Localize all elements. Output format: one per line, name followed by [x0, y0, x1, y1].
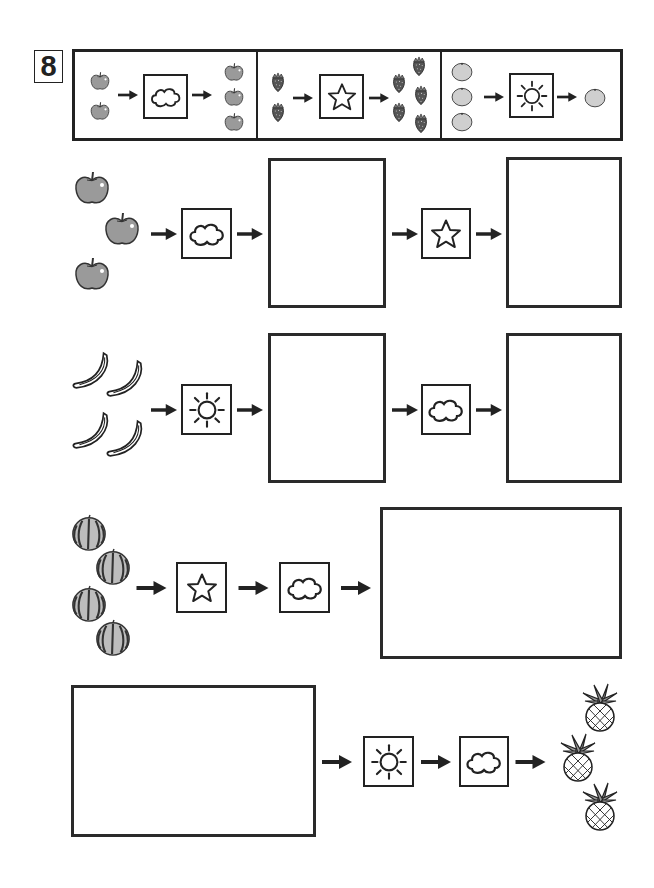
arrow-right-icon [557, 92, 577, 102]
panel-divider [256, 50, 258, 140]
strawberry-icon [391, 101, 407, 123]
arrow-right-icon [236, 581, 271, 595]
orange-icon [583, 87, 607, 108]
cloud-icon [149, 84, 183, 110]
cloud-operation-box [181, 208, 232, 259]
cloud-icon [464, 747, 504, 777]
watermelon-icon [94, 547, 132, 587]
apple-icon [72, 168, 112, 208]
pineapple-icon [580, 683, 620, 733]
arrow-right-icon [484, 92, 504, 102]
arrow-right-icon [320, 755, 354, 769]
arrow-right-icon [339, 581, 373, 595]
problem-number: 8 [40, 50, 56, 83]
arrow-right-icon [237, 227, 263, 241]
banana-icon [104, 357, 146, 401]
answer-box[interactable] [506, 333, 622, 483]
sun-operation-box [363, 736, 414, 787]
sun-icon [186, 389, 228, 431]
sun-operation-box [181, 384, 232, 435]
arrow-right-icon [392, 403, 418, 417]
strawberry-icon [413, 112, 429, 134]
star-operation-box [176, 562, 227, 613]
apple-icon [102, 209, 142, 249]
orange-icon [450, 61, 474, 82]
answer-box[interactable] [268, 158, 386, 308]
apple-icon [72, 254, 112, 294]
answer-box[interactable] [380, 507, 622, 659]
star-operation-box [421, 208, 471, 259]
star-icon [184, 570, 220, 606]
star-icon [325, 80, 359, 114]
apple-icon [89, 100, 111, 122]
orange-icon [450, 86, 474, 107]
pineapple-icon [558, 733, 598, 783]
cloud-rule-box [143, 74, 188, 119]
apple-icon [89, 70, 111, 92]
arrow-right-icon [192, 90, 212, 100]
arrow-right-icon [392, 227, 418, 241]
cloud-icon [285, 573, 325, 603]
cloud-operation-box [421, 384, 471, 435]
strawberry-icon [391, 72, 407, 94]
arrow-right-icon [237, 403, 263, 417]
arrow-right-icon [419, 755, 453, 769]
strawberry-icon [270, 71, 286, 93]
cloud-icon [426, 395, 466, 425]
answer-box[interactable] [506, 157, 622, 308]
panel-divider [440, 50, 442, 140]
arrow-right-icon [151, 403, 177, 417]
cloud-icon [187, 219, 227, 249]
arrow-right-icon [369, 93, 389, 103]
sun-rule-box [509, 73, 554, 118]
cloud-operation-box [459, 736, 509, 787]
arrow-right-icon [293, 93, 313, 103]
arrow-right-icon [476, 403, 502, 417]
strawberry-icon [411, 55, 427, 77]
watermelon-icon [94, 618, 132, 658]
pineapple-icon [580, 782, 620, 832]
strawberry-icon [413, 84, 429, 106]
arrow-right-icon [513, 755, 548, 769]
apple-icon [223, 111, 245, 133]
cloud-operation-box [279, 562, 330, 613]
answer-box[interactable] [71, 685, 316, 837]
problem-number-badge: 8 [34, 50, 63, 83]
strawberry-icon [270, 101, 286, 123]
orange-icon [450, 111, 474, 132]
star-rule-box [319, 74, 364, 119]
star-icon [428, 216, 464, 252]
apple-icon [223, 61, 245, 83]
banana-icon [104, 417, 146, 461]
arrow-right-icon [151, 227, 177, 241]
apple-icon [223, 86, 245, 108]
sun-icon [514, 78, 550, 114]
arrow-right-icon [476, 227, 502, 241]
sun-icon [368, 741, 410, 783]
answer-box[interactable] [268, 333, 386, 483]
arrow-right-icon [118, 90, 138, 100]
arrow-right-icon [134, 581, 169, 595]
